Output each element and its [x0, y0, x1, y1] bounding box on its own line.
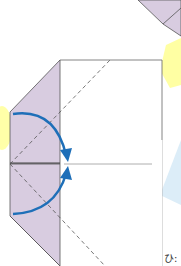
paper-front: [60, 60, 162, 266]
watermark-shape: [160, 140, 181, 205]
caption-text: ひ: ま: あ:: [164, 221, 177, 266]
paper-flap-bottom: [10, 164, 60, 266]
origami-diagram: [0, 0, 181, 266]
caption-line: ひ:: [164, 251, 177, 266]
paper-flap-top: [10, 60, 60, 164]
previous-step-corner: [138, 0, 181, 36]
